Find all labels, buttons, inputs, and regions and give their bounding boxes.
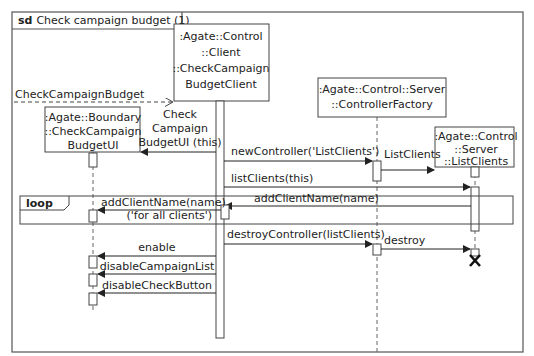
svg-text:::Client: ::Client — [201, 46, 241, 59]
svg-text::Agate::Control::Server: :Agate::Control::Server — [319, 83, 446, 96]
frame-keyword: sd — [18, 14, 32, 27]
svg-text:sdCheck campaign budget (1): sdCheck campaign budget (1) — [18, 14, 190, 27]
message-create-listclients: ListClients — [381, 148, 441, 170]
svg-text:::ListClients: ::ListClients — [444, 155, 508, 168]
lifeline-client: :Agate::Control ::Client ::CheckCampaign… — [172, 24, 269, 101]
loop-guard: ('for all clients') — [126, 209, 212, 222]
message-destroy: destroy — [381, 234, 470, 249]
message-list-clients: listClients(this) — [224, 172, 470, 187]
lifeline-listclients: :Agate::Control ::Server ::ListClients — [434, 127, 517, 168]
svg-text::Agate::Control: :Agate::Control — [179, 30, 262, 43]
svg-text:BudgetClient: BudgetClient — [185, 78, 257, 91]
svg-text:destroyController(listClients): destroyController(listClients) — [227, 228, 385, 241]
svg-text:disableCampaignList: disableCampaignList — [100, 260, 215, 273]
message-disable-campaign-list: disableCampaignList — [98, 260, 216, 274]
svg-text:BudgetUI: BudgetUI — [68, 139, 119, 152]
svg-text:addClientName(name): addClientName(name) — [101, 196, 226, 209]
boundary-activation-3 — [89, 256, 97, 268]
message-found-check-campaign-budget: CheckCampaignBudget — [14, 88, 173, 102]
boundary-activation-2 — [89, 210, 97, 222]
boundary-activation-4 — [89, 274, 97, 286]
svg-text:Campaign: Campaign — [152, 122, 208, 135]
svg-text:listClients(this): listClients(this) — [231, 172, 313, 185]
boundary-activation-5 — [89, 293, 97, 305]
loop-keyword: loop — [26, 197, 53, 210]
destruction-x-icon — [470, 255, 480, 266]
lifeline-boundary: :Agate::Boundary ::CheckCampaign BudgetU… — [44, 107, 141, 152]
message-enable: enable — [98, 241, 216, 256]
lifeline-factory: :Agate::Control::Server ::ControllerFact… — [318, 78, 446, 117]
message-disable-check-button: disableCheckButton — [98, 279, 216, 293]
factory-activation-1 — [373, 161, 381, 181]
svg-text:::ControllerFactory: ::ControllerFactory — [331, 98, 433, 111]
svg-text::Agate::Control: :Agate::Control — [434, 130, 517, 143]
svg-text:::CheckCampaign: ::CheckCampaign — [44, 125, 141, 138]
svg-text:ListClients: ListClients — [384, 148, 441, 161]
message-new-controller: newController('ListClients') — [224, 145, 379, 161]
svg-text::Agate::Boundary: :Agate::Boundary — [45, 111, 142, 124]
message-add-client-name-boundary: addClientName(name) — [98, 196, 226, 210]
message-create-ui: Check Campaign BudgetUI (this) — [138, 108, 221, 152]
svg-text:enable: enable — [138, 241, 176, 254]
listclients-activation-3 — [471, 249, 479, 256]
diagram-title: Check campaign budget (1) — [36, 14, 189, 27]
message-add-client-name-listclients: addClientName(name) — [225, 192, 471, 206]
svg-text:addClientName(name): addClientName(name) — [254, 192, 379, 205]
sequence-diagram: sdCheck campaign budget (1) :Agate::Cont… — [0, 0, 534, 356]
svg-text:destroy: destroy — [384, 234, 426, 247]
svg-text:BudgetUI (this): BudgetUI (this) — [138, 136, 221, 149]
svg-text:::CheckCampaign: ::CheckCampaign — [172, 62, 269, 75]
boundary-activation-1 — [89, 153, 97, 167]
listclients-activation-1 — [471, 167, 479, 177]
message-destroy-controller: destroyController(listClients) — [224, 228, 385, 244]
factory-activation-2 — [373, 244, 381, 255]
svg-text:disableCheckButton: disableCheckButton — [102, 279, 212, 292]
svg-text:newController('ListClients'): newController('ListClients') — [231, 145, 379, 158]
svg-text:CheckCampaignBudget: CheckCampaignBudget — [15, 88, 145, 101]
svg-text:Check: Check — [163, 108, 197, 121]
